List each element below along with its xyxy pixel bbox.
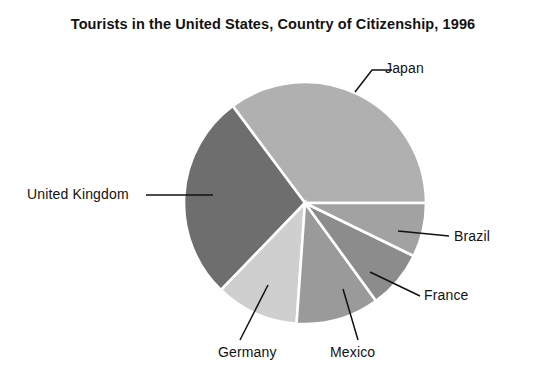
slice-label-germany: Germany bbox=[218, 344, 277, 360]
slice-label-mexico: Mexico bbox=[330, 344, 375, 360]
slice-label-brazil: Brazil bbox=[454, 228, 490, 244]
pie-chart-figure: Tourists in the United States, Country o… bbox=[0, 0, 546, 379]
slice-label-france: France bbox=[424, 287, 468, 303]
slice-label-japan: Japan bbox=[385, 60, 424, 76]
slice-label-united-kingdom: United Kingdom bbox=[27, 186, 129, 202]
pie-slices-group bbox=[184, 82, 426, 324]
